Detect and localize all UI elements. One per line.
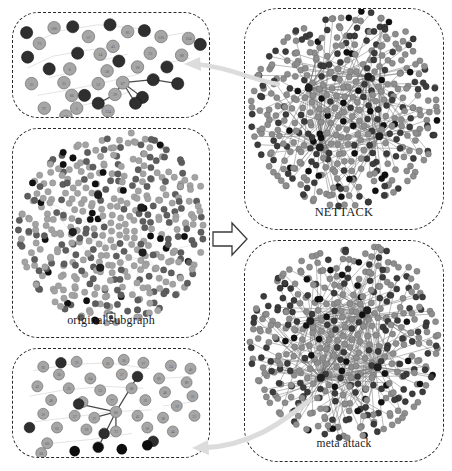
svg-text:67: 67 (121, 81, 125, 86)
svg-text:77: 77 (110, 399, 114, 403)
svg-text:73: 73 (37, 41, 41, 46)
svg-text:72: 72 (114, 430, 118, 434)
svg-text:85: 85 (157, 377, 161, 381)
svg-text:106: 106 (51, 26, 57, 31)
svg-text:64: 64 (89, 377, 93, 381)
svg-text:97: 97 (42, 106, 46, 111)
svg-text:40: 40 (189, 368, 193, 372)
transform-arrow (210, 218, 250, 260)
svg-text:120: 120 (158, 35, 164, 40)
svg-text:29: 29 (113, 92, 117, 97)
svg-text:14: 14 (98, 52, 102, 57)
svg-text:81: 81 (126, 30, 130, 35)
figure-root: 7357 120104 4314 5388 658 1835 5267 295 … (0, 0, 452, 471)
svg-text:60: 60 (39, 452, 43, 456)
svg-text:25: 25 (67, 387, 71, 391)
svg-text:63: 63 (55, 427, 59, 431)
svg-text:104: 104 (185, 36, 191, 41)
panel-zoomed-detail-nettack: 7357 120104 4314 5388 658 1835 5267 295 … (12, 12, 210, 118)
svg-text:35: 35 (62, 81, 66, 86)
caption-meta-attack: meta attack (244, 437, 444, 449)
svg-text:33: 33 (191, 395, 195, 399)
panel-original-subgraph (12, 128, 210, 338)
svg-text:57: 57 (86, 35, 90, 40)
svg-text:66: 66 (114, 411, 118, 415)
svg-text:58: 58 (105, 69, 109, 74)
svg-text:5: 5 (76, 106, 78, 111)
svg-text:97: 97 (142, 362, 146, 366)
svg-text:37: 37 (92, 417, 96, 421)
svg-text:134: 134 (105, 109, 111, 114)
caption-original-subgraph: original subgraph (12, 313, 210, 328)
panel-nettack (244, 8, 444, 230)
svg-text:18: 18 (135, 65, 139, 70)
zoomed-detail-nettack-graphic: 7357 120104 4314 5388 658 1835 5267 295 … (13, 13, 209, 117)
panel-meta-attack (244, 240, 444, 462)
panel-zoomed-detail-meta: 9233 6136 9724 4030 6417 8589 4125 5368 … (12, 348, 210, 458)
node-group-black (69, 440, 152, 456)
svg-text:35: 35 (30, 82, 34, 87)
svg-text:89: 89 (185, 381, 189, 385)
svg-text:24: 24 (169, 365, 173, 369)
svg-text:44: 44 (171, 430, 175, 434)
svg-text:43: 43 (111, 44, 115, 49)
svg-text:17: 17 (120, 373, 124, 377)
svg-text:33: 33 (75, 361, 79, 365)
svg-text:27: 27 (73, 415, 77, 419)
svg-text:48: 48 (49, 399, 53, 403)
svg-text:46: 46 (163, 391, 167, 395)
svg-text:31: 31 (41, 413, 45, 417)
svg-text:61: 61 (106, 362, 110, 366)
caption-nettack: NETTACK (244, 205, 444, 220)
svg-text:50: 50 (145, 427, 149, 431)
svg-text:66: 66 (70, 93, 74, 98)
svg-text:21: 21 (193, 415, 197, 419)
svg-text:54: 54 (64, 114, 68, 119)
svg-text:60: 60 (45, 442, 49, 446)
svg-text:19: 19 (175, 405, 179, 409)
svg-text:68: 68 (130, 387, 134, 391)
svg-text:45: 45 (136, 415, 140, 419)
original-subgraph-graphic (13, 129, 209, 337)
zoomed-detail-meta-graphic: 9233 6136 9724 4030 6417 8589 4125 5368 … (13, 349, 209, 457)
svg-text:53: 53 (148, 51, 152, 56)
svg-text:29: 29 (144, 399, 148, 403)
svg-text:58: 58 (161, 417, 165, 421)
svg-text:53: 53 (98, 389, 102, 393)
svg-text:88: 88 (180, 53, 184, 58)
svg-text:41: 41 (36, 385, 40, 389)
svg-text:92: 92 (41, 366, 45, 370)
svg-text:36: 36 (122, 359, 126, 363)
svg-text:52: 52 (96, 82, 100, 87)
svg-text:6: 6 (69, 67, 71, 72)
svg-text:39: 39 (85, 428, 89, 432)
svg-text:30: 30 (57, 373, 61, 377)
meta-attack-graphic (245, 241, 443, 461)
nettack-graphic (245, 9, 443, 229)
